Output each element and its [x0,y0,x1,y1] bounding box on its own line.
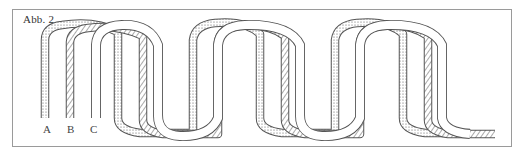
label-c: C [90,123,97,135]
label-a: A [43,123,51,135]
label-b: B [67,123,74,135]
band-a [45,22,470,133]
band-b [70,25,495,134]
serpentine-bands-drawing [0,0,525,157]
figure-caption: Abb. 2 [23,13,54,25]
